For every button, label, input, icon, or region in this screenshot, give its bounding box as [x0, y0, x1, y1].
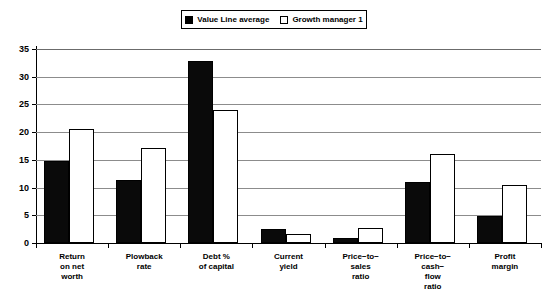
- x-axis-tick: [397, 243, 398, 248]
- x-axis-tick: [180, 243, 181, 248]
- bar-value-line-average: [188, 61, 213, 243]
- x-axis-tick: [36, 243, 37, 248]
- y-axis-tick: [32, 160, 36, 161]
- bar-value-line-average: [333, 238, 358, 243]
- legend-item-growth-manager-1: Growth manager 1: [280, 16, 362, 24]
- y-axis-tick: [32, 49, 36, 50]
- filled-square-icon: [185, 16, 193, 24]
- bar-chart: Value Line average Growth manager 1 0510…: [0, 0, 550, 308]
- x-axis-tick: [108, 243, 109, 248]
- gridline: [36, 160, 541, 161]
- y-axis-tick-label: 20: [19, 128, 29, 137]
- bar-growth-manager-1: [69, 129, 94, 243]
- bar-growth-manager-1: [502, 185, 527, 243]
- y-axis-tick: [32, 215, 36, 216]
- x-axis-tick: [541, 243, 542, 248]
- y-axis-tick-label: 0: [24, 239, 29, 248]
- bar-value-line-average: [44, 161, 69, 243]
- y-axis-tick: [32, 188, 36, 189]
- bar-value-line-average: [405, 182, 430, 243]
- bar-growth-manager-1: [213, 110, 238, 243]
- x-axis-category-label: Profit margin: [469, 252, 541, 272]
- x-axis-category-label: Price−to− cash− flow ratio: [397, 252, 469, 292]
- gridline: [36, 215, 541, 216]
- legend-label: Value Line average: [197, 16, 269, 24]
- y-axis-tick-label: 15: [19, 155, 29, 164]
- bar-growth-manager-1: [141, 148, 166, 243]
- y-axis-tick-label: 30: [19, 72, 29, 81]
- y-axis-tick: [32, 132, 36, 133]
- chart-legend: Value Line average Growth manager 1: [181, 10, 367, 29]
- x-axis-tick: [325, 243, 326, 248]
- legend-item-value-line-average: Value Line average: [185, 16, 269, 24]
- legend-label: Growth manager 1: [292, 16, 362, 24]
- x-axis-line: [36, 243, 541, 244]
- y-axis-tick-label: 25: [19, 100, 29, 109]
- bar-value-line-average: [261, 229, 286, 243]
- gridline: [36, 104, 541, 105]
- x-axis-tick: [469, 243, 470, 248]
- bar-value-line-average: [116, 180, 141, 243]
- bar-growth-manager-1: [358, 228, 383, 243]
- bar-growth-manager-1: [286, 234, 311, 243]
- plot-area: 05101520253035: [36, 49, 541, 243]
- bar-growth-manager-1: [430, 154, 455, 243]
- x-axis-category-label: Price−to− sales ratio: [325, 252, 397, 282]
- x-axis-category-label: Return on net worth: [36, 252, 108, 282]
- gridline: [36, 77, 541, 78]
- y-axis-tick-label: 5: [24, 211, 29, 220]
- x-axis-tick: [252, 243, 253, 248]
- y-axis-tick: [32, 104, 36, 105]
- y-axis-tick-label: 35: [19, 45, 29, 54]
- x-axis-category-label: Plowback rate: [108, 252, 180, 272]
- bar-value-line-average: [477, 216, 502, 243]
- y-axis-tick: [32, 77, 36, 78]
- y-axis-tick-label: 10: [19, 183, 29, 192]
- gridline: [36, 132, 541, 133]
- x-axis-category-label: Debt % of capital: [180, 252, 252, 272]
- gridline: [36, 49, 541, 50]
- open-square-icon: [280, 16, 288, 24]
- gridline: [36, 188, 541, 189]
- x-axis-category-label: Current yield: [252, 252, 324, 272]
